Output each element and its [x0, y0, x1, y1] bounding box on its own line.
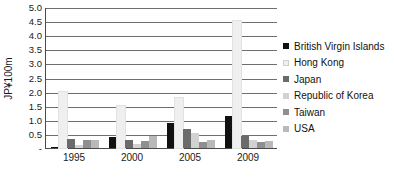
- bar-cluster-1995: [46, 8, 104, 148]
- x-axis-tick-2000: 2000: [121, 152, 143, 164]
- bar-1995-series-0: [51, 147, 59, 148]
- bars-layer: [46, 8, 277, 148]
- y-axis-tick-4: 2.0: [14, 88, 42, 98]
- legend-swatch-icon: [283, 76, 289, 82]
- plot-area: [45, 8, 277, 149]
- x-axis-tick-2009: 2009: [237, 152, 259, 164]
- bar-2000-series-5: [149, 136, 157, 148]
- bar-2000-series-2: [125, 140, 133, 148]
- y-axis-tick-3: 1.5: [14, 102, 42, 112]
- bar-2005-series-1: [175, 98, 183, 148]
- bar-1995-series-5: [91, 140, 99, 148]
- legend: British Virgin IslandsHong KongJapanRepu…: [283, 38, 394, 137]
- bar-chart: JP¥100m -0.51.01.52.02.53.03.54.04.55.0 …: [0, 0, 394, 180]
- y-axis-tick-8: 4.0: [14, 31, 42, 41]
- legend-item-usa[interactable]: USA: [283, 121, 394, 138]
- y-axis-tick-10: 5.0: [14, 3, 42, 13]
- bar-2009-series-0: [225, 116, 233, 148]
- legend-label: Taiwan: [294, 107, 325, 118]
- bar-2005-series-4: [199, 142, 207, 148]
- x-axis-tick-labels: 1995200020052009: [45, 152, 277, 170]
- legend-item-republic-of-korea[interactable]: Republic of Korea: [283, 88, 394, 105]
- bar-2005-series-3: [191, 133, 199, 148]
- y-axis-title-text: JP¥100m: [3, 57, 14, 99]
- bar-1995-series-1: [59, 92, 67, 148]
- legend-swatch-icon: [283, 93, 289, 99]
- bar-2009-series-2: [241, 136, 249, 148]
- bar-2009-series-5: [265, 141, 273, 148]
- bar-2009-series-1: [233, 21, 241, 148]
- y-axis-tick-labels: -0.51.01.52.02.53.03.54.04.55.0: [14, 8, 42, 149]
- x-axis-tick-2005: 2005: [179, 152, 201, 164]
- bar-2000-series-0: [109, 137, 117, 148]
- bar-2005-series-5: [207, 140, 215, 148]
- y-axis-tick-6: 3.0: [14, 60, 42, 70]
- y-axis-tick-1: 0.5: [14, 130, 42, 140]
- bar-2005-series-0: [167, 123, 175, 148]
- bar-2009-series-3: [249, 140, 257, 148]
- x-axis-tick-1995: 1995: [63, 152, 85, 164]
- y-axis-tick-7: 3.5: [14, 46, 42, 56]
- legend-swatch-icon: [283, 109, 289, 115]
- legend-swatch-icon: [283, 43, 289, 49]
- legend-label: USA: [294, 123, 315, 134]
- bar-2000-series-4: [141, 141, 149, 148]
- bar-cluster-2000: [104, 8, 162, 148]
- y-axis-tick-0: -: [14, 144, 42, 154]
- legend-item-hong-kong[interactable]: Hong Kong: [283, 55, 394, 72]
- y-axis-tick-2: 1.0: [14, 116, 42, 126]
- bar-cluster-2005: [162, 8, 220, 148]
- legend-label: Japan: [294, 74, 321, 85]
- legend-label: British Virgin Islands: [294, 41, 384, 52]
- bar-2000-series-3: [133, 144, 141, 149]
- legend-swatch-icon: [283, 126, 289, 132]
- bar-2009-series-4: [257, 142, 265, 148]
- bar-2005-series-2: [183, 129, 191, 148]
- legend-label: Hong Kong: [294, 57, 344, 68]
- legend-label: Republic of Korea: [294, 90, 374, 101]
- legend-item-japan[interactable]: Japan: [283, 71, 394, 88]
- legend-item-taiwan[interactable]: Taiwan: [283, 104, 394, 121]
- legend-item-british-virgin-islands[interactable]: British Virgin Islands: [283, 38, 394, 55]
- bar-2000-series-1: [117, 106, 125, 148]
- y-axis-tick-9: 4.5: [14, 17, 42, 27]
- bar-1995-series-4: [83, 140, 91, 148]
- y-axis-tick-5: 2.5: [14, 74, 42, 84]
- bar-1995-series-3: [75, 145, 83, 148]
- bar-cluster-2009: [220, 8, 278, 148]
- legend-swatch-icon: [283, 60, 289, 66]
- bar-1995-series-2: [67, 139, 75, 148]
